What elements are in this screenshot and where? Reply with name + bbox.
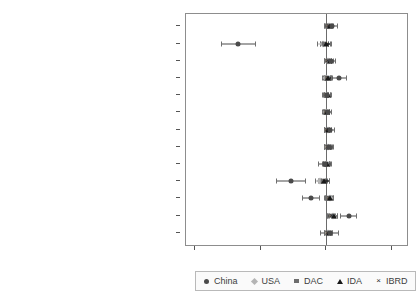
- data-point-china: [328, 58, 333, 63]
- y-axis-tick: [176, 60, 180, 61]
- data-point-china: [309, 196, 314, 201]
- circle-marker-icon: [203, 278, 210, 285]
- legend-label: IDA: [347, 276, 362, 286]
- data-point-ida: [323, 41, 329, 46]
- x-axis-tick: [194, 246, 195, 250]
- plot-area: [185, 13, 408, 246]
- legend-item-dac[interactable]: DAC: [293, 276, 323, 286]
- y-axis-tick: [176, 77, 180, 78]
- legend-item-usa[interactable]: USA: [251, 276, 281, 286]
- legend-label: China: [214, 276, 238, 286]
- data-point-china: [336, 75, 341, 80]
- y-axis-tick: [176, 43, 180, 44]
- data-point-china: [326, 144, 331, 149]
- coefficient-plot: ChinaUSADACIDAIBRD: [0, 0, 419, 302]
- data-point-ida: [325, 75, 331, 80]
- legend-item-china[interactable]: China: [203, 276, 238, 286]
- data-point-china: [327, 230, 332, 235]
- y-axis-tick: [176, 111, 180, 112]
- y-axis-tick: [176, 146, 180, 147]
- y-axis-tick: [176, 215, 180, 216]
- square-marker-icon: [293, 278, 300, 285]
- cross-marker-icon: [375, 278, 382, 285]
- triangle-marker-icon: [336, 278, 343, 285]
- y-axis-tick: [176, 25, 180, 26]
- data-point-china: [330, 24, 335, 29]
- x-axis-tick: [391, 246, 392, 250]
- data-point-china: [288, 179, 293, 184]
- data-point-ida: [321, 179, 327, 184]
- data-point-china: [323, 161, 328, 166]
- legend-label: DAC: [304, 276, 323, 286]
- legend-item-ibrd[interactable]: IBRD: [375, 276, 408, 286]
- data-point-china: [327, 127, 332, 132]
- data-point-china: [325, 110, 330, 115]
- legend-label: USA: [262, 276, 281, 286]
- y-axis-tick: [176, 180, 180, 181]
- data-point-ida: [327, 196, 333, 201]
- data-point-china: [346, 213, 351, 218]
- y-axis-tick: [176, 129, 180, 130]
- y-axis-tick: [176, 232, 180, 233]
- data-point-china: [325, 93, 330, 98]
- data-point-ida: [331, 213, 337, 218]
- x-axis-tick: [260, 246, 261, 250]
- y-axis-tick: [176, 197, 180, 198]
- y-axis-category-labels: [0, 0, 180, 250]
- legend-item-ida[interactable]: IDA: [336, 276, 362, 286]
- y-axis-tick: [176, 163, 180, 164]
- diamond-marker-icon: [251, 278, 258, 285]
- x-axis-tick: [325, 246, 326, 250]
- y-axis-tick: [176, 94, 180, 95]
- chart-legend: ChinaUSADACIDAIBRD: [195, 271, 416, 291]
- legend-label: IBRD: [386, 276, 408, 286]
- data-point-china: [236, 41, 241, 46]
